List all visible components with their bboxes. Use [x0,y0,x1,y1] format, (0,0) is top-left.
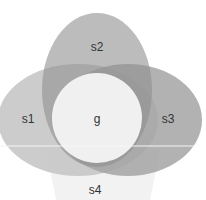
label-s3: s3 [162,112,175,126]
label-s1: s1 [22,112,35,126]
venn-diagram: s2 s1 g s3 s4 [0,0,206,200]
label-g: g [94,112,101,126]
label-s2: s2 [91,40,104,54]
label-s4: s4 [89,183,102,197]
